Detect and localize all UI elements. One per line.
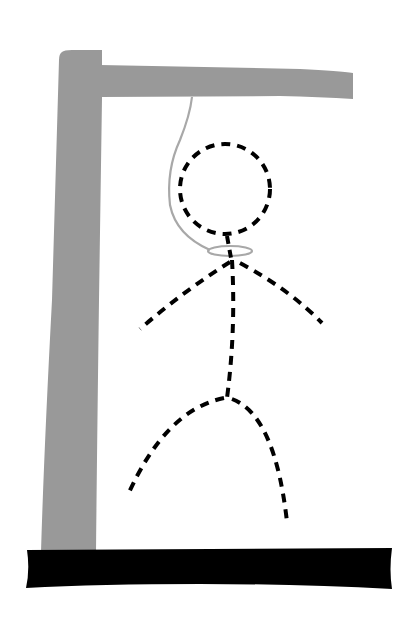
hangman-illustration (0, 0, 414, 626)
rope (169, 97, 210, 250)
hangman-svg (0, 0, 414, 626)
left-arm (140, 262, 230, 329)
right-arm (240, 263, 322, 323)
left-leg (127, 398, 224, 497)
gallows-post (41, 50, 102, 552)
base-platform (26, 548, 392, 589)
head (180, 144, 270, 234)
right-leg (232, 399, 287, 522)
gallows-beam (100, 65, 353, 99)
body (227, 260, 233, 398)
